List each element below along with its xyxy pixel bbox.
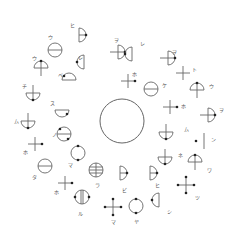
symbol-circle-hdot: [57, 127, 71, 141]
symbol-half-right-stem: [200, 108, 216, 122]
symbol-label: ム: [14, 119, 19, 124]
symbol-half-left: [151, 193, 159, 207]
symbol-circle-vdot: [71, 145, 85, 162]
symbol-label: ン: [211, 137, 216, 142]
symbol-bowl-stem: [26, 85, 40, 101]
center-circle: [100, 99, 144, 143]
symbol-bowl-stem: [159, 124, 173, 140]
symbol-label: ヒ: [155, 183, 160, 188]
symbol-label: ヲ: [114, 38, 119, 43]
symbol-circle-h: [48, 43, 62, 57]
symbol-label: ワ: [207, 168, 212, 173]
symbol-half-right: [150, 166, 158, 180]
symbol-label: ホ: [54, 190, 59, 195]
symbol-label: ル: [78, 211, 83, 216]
symbol-umbrella-up: [34, 60, 48, 76]
symbol-label: ビ: [122, 188, 127, 193]
symbol-label: ツ: [195, 195, 200, 200]
symbol-half-right-stem: [110, 45, 126, 59]
symbol-label: ウ: [32, 56, 37, 61]
symbol-label: ウ: [48, 35, 53, 40]
symbol-label: シ: [167, 209, 172, 214]
symbol-circle-v2: [74, 190, 91, 204]
symbol-label: ム: [184, 127, 189, 132]
symbol-circle-grid: [89, 163, 103, 177]
symbol-circle-h: [144, 82, 158, 96]
symbol-label: ネ: [178, 153, 183, 158]
symbol-label: ホ: [132, 72, 137, 77]
symbol-cross-dot: [58, 176, 73, 190]
symbol-label: ウ: [209, 84, 214, 89]
symbol-plus-dots: [177, 176, 196, 195]
symbol-label: ト: [192, 67, 197, 72]
symbol-dot: [195, 140, 198, 143]
symbol-label: マ: [68, 163, 73, 168]
symbol-label: チ: [22, 84, 27, 89]
symbol-group: [21, 28, 216, 216]
symbol-label: タ: [32, 175, 37, 180]
symbol-bowl-dot: [55, 110, 69, 117]
symbol-half-right: [120, 166, 128, 180]
symbol-bowl-stem: [158, 149, 172, 165]
symbol-label: ノ: [52, 132, 57, 137]
symbol-half-left: [124, 47, 132, 61]
symbol-umbrella-up: [190, 82, 204, 98]
symbol-label: レ: [140, 41, 145, 46]
symbol-half-right: [79, 28, 87, 42]
symbol-cross: [176, 66, 190, 80]
symbol-label: ヲ: [219, 108, 224, 113]
symbol-umbrella-up: [188, 154, 202, 170]
symbol-dome-dot: [62, 73, 76, 80]
symbol-plus-dots: [104, 198, 123, 217]
symbol-label: レ: [78, 55, 83, 60]
symbol-label: ス: [50, 101, 55, 106]
symbol-bowl-stem: [21, 113, 35, 129]
symbol-circle-h: [38, 159, 52, 173]
symbol-label: ラ: [95, 183, 100, 188]
symbol-circle-vdot: [129, 198, 143, 215]
symbol-label: ホ: [181, 104, 186, 109]
symbol-label: ヒ: [70, 23, 75, 28]
symbol-label: ヤ: [134, 219, 139, 224]
symbol-label: ヲ: [172, 50, 177, 55]
symbol-label: ホ: [23, 150, 28, 155]
symbol-cross-dot: [163, 100, 178, 114]
symbol-label: マ: [111, 220, 116, 225]
symbol-label: ベ: [58, 73, 63, 78]
symbol-label: ケ: [162, 83, 167, 88]
symbol-cross-dot: [28, 137, 43, 151]
